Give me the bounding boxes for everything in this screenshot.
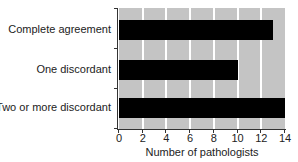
x-tick-label: 14 (275, 132, 295, 144)
y-tick (114, 8, 118, 9)
x-tick-label: 8 (204, 132, 224, 144)
y-tick (114, 128, 118, 129)
category-label: Complete agreement (8, 23, 111, 35)
x-tick-label: 6 (180, 132, 200, 144)
y-axis (117, 8, 118, 129)
bar (119, 98, 285, 118)
category-label: One discordant (36, 63, 111, 75)
x-tick-label: 10 (228, 132, 248, 144)
bar (119, 60, 238, 80)
y-tick (114, 48, 118, 49)
category-label: Two or more discordant (0, 101, 111, 113)
x-tick-label: 2 (133, 132, 153, 144)
bar-chart: Number of pathologists 02468101214Comple… (0, 0, 298, 162)
x-tick-label: 0 (109, 132, 129, 144)
plot-area (119, 8, 285, 129)
x-axis-label: Number of pathologists (119, 146, 285, 158)
x-tick-label: 4 (156, 132, 176, 144)
y-tick (114, 88, 118, 89)
x-tick-label: 12 (251, 132, 271, 144)
bar (119, 20, 273, 40)
